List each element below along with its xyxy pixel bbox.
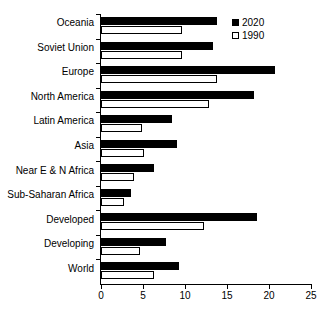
x-axis-tick-label: 25 [296,290,326,302]
y-axis-tick [96,186,101,187]
y-axis-tick [96,259,101,260]
x-axis-tick-label: 20 [254,290,284,302]
x-axis-tick [269,285,270,289]
legend-swatch-1990-icon [232,32,239,39]
bar-2020 [101,213,257,221]
x-axis-tick [143,285,144,289]
legend-item-2020: 2020 [232,16,264,29]
x-axis-tick [227,285,228,289]
y-axis-tick [96,161,101,162]
y-axis-label: Latin America [0,115,94,127]
y-axis-label: Oceania [0,17,94,29]
bar-2020 [101,189,131,197]
bar-2020 [101,17,217,25]
x-axis-line [101,284,312,285]
y-axis-tick [96,112,101,113]
y-axis-label: Sub-Saharan Africa [0,189,94,201]
bar-1990 [101,247,140,255]
bar-2020 [101,262,179,270]
bar-1990 [101,124,142,132]
legend-swatch-2020-icon [232,19,239,26]
y-axis-label: Developed [0,214,94,226]
bar-1990 [101,100,209,108]
chart-legend: 2020 1990 [232,16,264,42]
bar-1990 [101,222,204,230]
legend-label-2020: 2020 [242,16,264,29]
bar-2020 [101,91,254,99]
bar-1990 [101,198,124,206]
x-axis-tick-label: 5 [128,290,158,302]
bar-1990 [101,75,217,83]
legend-label-1990: 1990 [242,29,264,42]
y-axis-label: Soviet Union [0,42,94,54]
bar-1990 [101,271,154,279]
y-axis-tick [96,137,101,138]
y-axis-tick [96,210,101,211]
y-axis-label: World [0,263,94,275]
x-axis-tick-label: 15 [212,290,242,302]
bar-1990 [101,149,144,157]
bar-1990 [101,26,182,34]
y-axis-label: Asia [0,140,94,152]
bar-2020 [101,66,275,74]
bar-2020 [101,164,154,172]
y-axis-tick [96,63,101,64]
bar-chart: OceaniaSoviet UnionEuropeNorth AmericaLa… [0,0,332,314]
bar-2020 [101,42,213,50]
x-axis-tick [311,285,312,289]
y-axis-tick [96,39,101,40]
bar-2020 [101,115,172,123]
y-axis-tick [96,14,101,15]
y-axis-tick [96,88,101,89]
bar-2020 [101,238,166,246]
legend-item-1990: 1990 [232,29,264,42]
y-axis-label: Europe [0,66,94,78]
y-axis-label: Near E & N Africa [0,165,94,177]
bar-2020 [101,140,177,148]
x-axis-tick-label: 0 [86,290,116,302]
bar-1990 [101,173,134,181]
x-axis-tick-label: 10 [170,290,200,302]
y-axis-label: Developing [0,238,94,250]
x-axis-tick [101,285,102,289]
x-axis-tick [185,285,186,289]
y-axis-tick [96,235,101,236]
y-axis-label: North America [0,91,94,103]
bar-1990 [101,51,182,59]
